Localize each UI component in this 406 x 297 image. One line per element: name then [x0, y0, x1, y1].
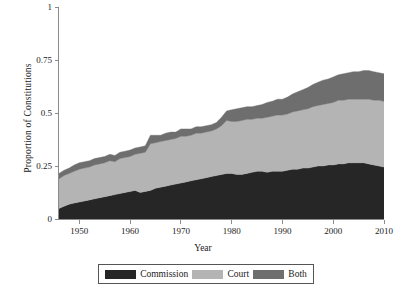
- x-tick-label-1980: 1980: [212, 227, 252, 236]
- x-tick-label-1960: 1960: [110, 227, 150, 236]
- x-tick-label-1970: 1970: [161, 227, 201, 236]
- legend-entry-court[interactable]: Court: [192, 269, 249, 279]
- legend-entry-commission[interactable]: Commission: [105, 269, 188, 279]
- stacked-area-chart-figure: Proportion of Constitutions 00.250.50.75…: [0, 0, 406, 297]
- legend-label-commission: Commission: [140, 269, 188, 279]
- x-axis-title: Year: [0, 243, 406, 253]
- legend-swatch-both: [253, 270, 284, 279]
- legend-label-both: Both: [288, 269, 306, 279]
- x-tick-label-1950: 1950: [59, 227, 99, 236]
- chart-legend: CommissionCourtBoth: [98, 264, 314, 284]
- x-tick-label-2010: 2010: [364, 227, 404, 236]
- x-tick-label-1990: 1990: [262, 227, 302, 236]
- x-tick-label-2000: 2000: [313, 227, 353, 236]
- legend-swatch-commission: [105, 270, 136, 279]
- legend-swatch-court: [192, 270, 223, 279]
- legend-label-court: Court: [227, 269, 249, 279]
- legend-entry-both[interactable]: Both: [253, 269, 306, 279]
